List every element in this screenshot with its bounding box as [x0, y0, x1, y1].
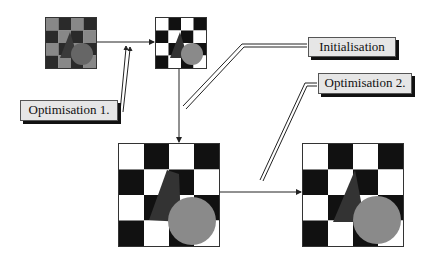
- input-noisy-image: [45, 17, 97, 69]
- label-initialisation: Initialisation: [308, 37, 396, 57]
- label-optimisation-2: Optimisation 2.: [318, 73, 412, 94]
- callout-opt1: [120, 46, 132, 112]
- optimised-2-image: [302, 143, 404, 247]
- initialised-image: [155, 17, 207, 69]
- label-optimisation-1: Optimisation 1.: [20, 100, 118, 121]
- optimised-1-image: [118, 143, 220, 247]
